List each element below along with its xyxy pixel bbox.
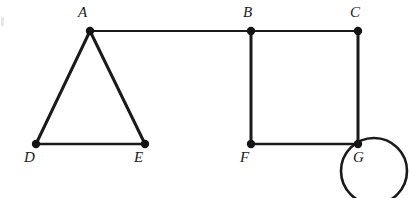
graph-diagram: A B C D E F G [0, 0, 409, 198]
edge-AE [90, 31, 145, 144]
vertex-label-C: C [350, 5, 360, 20]
vertex-dot-B [247, 27, 255, 35]
vertex-dot-E [141, 140, 149, 148]
vertex-label-A: A [78, 5, 87, 20]
vertex-label-G: G [353, 150, 364, 165]
vertex-dot-F [247, 140, 255, 148]
graph-canvas [0, 0, 409, 198]
vertex-dot-C [354, 27, 362, 35]
vertex-label-E: E [134, 150, 143, 165]
vertex-label-D: D [24, 150, 35, 165]
self-loop-at-G [341, 138, 407, 198]
vertex-dot-A [86, 27, 94, 35]
self-loop-group [341, 138, 407, 198]
edges-group [36, 31, 358, 144]
vertex-label-B: B [243, 5, 252, 20]
vertex-label-F: F [240, 150, 249, 165]
vertex-dot-D [32, 140, 40, 148]
vertices-group [32, 27, 362, 148]
edge-AD [36, 31, 90, 144]
vertex-dot-G [354, 140, 362, 148]
